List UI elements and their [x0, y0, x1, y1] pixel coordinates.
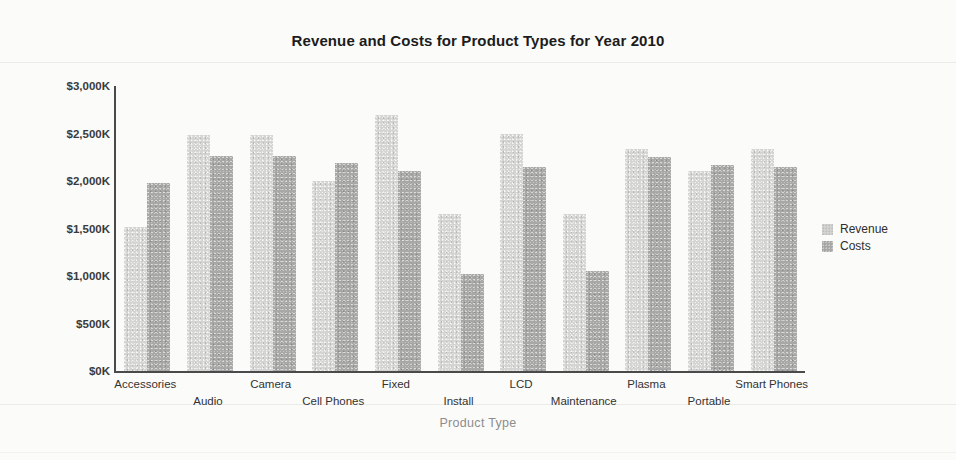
x-axis-title: Product Type — [0, 416, 956, 430]
bar-revenue[interactable] — [187, 135, 210, 371]
bar-costs[interactable] — [335, 163, 358, 371]
legend-item-revenue[interactable]: Revenue — [822, 222, 888, 236]
bar-group — [241, 86, 304, 371]
bar-costs[interactable] — [648, 157, 671, 371]
chart-title: Revenue and Costs for Product Types for … — [0, 32, 956, 49]
bar-costs[interactable] — [586, 271, 609, 371]
bar-chart: Revenue and Costs for Product Types for … — [0, 0, 956, 460]
x-axis-tick-labels: AccessoriesAudioCameraCell PhonesFixedIn… — [114, 371, 803, 417]
bar-revenue[interactable] — [751, 149, 774, 371]
x-axis-tick-label: Install — [443, 395, 473, 407]
x-axis-tick-label: Maintenance — [551, 395, 617, 407]
bar-costs[interactable] — [147, 183, 170, 371]
bar-revenue[interactable] — [312, 181, 335, 371]
legend-swatch-icon — [822, 224, 833, 235]
x-axis-tick-label: Camera — [250, 378, 291, 390]
x-axis-tick-label: Fixed — [382, 378, 410, 390]
bar-costs[interactable] — [774, 167, 797, 371]
bar-group — [492, 86, 555, 371]
bar-revenue[interactable] — [500, 134, 523, 372]
x-axis-tick-label: Portable — [688, 395, 731, 407]
bar-revenue[interactable] — [688, 171, 711, 371]
bar-revenue[interactable] — [250, 135, 273, 371]
bar-revenue[interactable] — [438, 214, 461, 371]
bar-group — [367, 86, 430, 371]
bar-costs[interactable] — [273, 156, 296, 371]
bar-group — [554, 86, 617, 371]
x-axis-tick-label: Audio — [193, 395, 222, 407]
bars-container — [116, 86, 805, 371]
x-axis-tick-label: Smart Phones — [735, 378, 808, 390]
y-axis-tick-label: $1,000K — [38, 270, 110, 282]
bar-costs[interactable] — [210, 156, 233, 371]
bar-revenue[interactable] — [124, 227, 147, 371]
chart-legend: RevenueCosts — [822, 222, 888, 256]
x-axis-tick-label: Accessories — [114, 378, 176, 390]
legend-label: Costs — [840, 239, 871, 253]
x-axis-tick-label: Plasma — [627, 378, 665, 390]
bar-group — [179, 86, 242, 371]
legend-item-costs[interactable]: Costs — [822, 239, 888, 253]
bar-revenue[interactable] — [563, 214, 586, 371]
y-axis-tick-label: $0K — [38, 365, 110, 377]
y-axis-tick-labels: $3,000K$2,500K$2,000K$1,500K$1,000K$500K… — [34, 0, 110, 460]
bar-costs[interactable] — [398, 171, 421, 371]
x-axis-tick-label: LCD — [510, 378, 533, 390]
bar-costs[interactable] — [711, 165, 734, 371]
x-axis-tick-label: Cell Phones — [302, 395, 364, 407]
y-axis-tick-label: $3,000K — [38, 80, 110, 92]
y-axis-tick-label: $500K — [38, 318, 110, 330]
legend-swatch-icon — [822, 241, 833, 252]
bar-costs[interactable] — [523, 167, 546, 371]
bar-group — [304, 86, 367, 371]
y-axis-tick-label: $2,500K — [38, 128, 110, 140]
bar-group — [742, 86, 805, 371]
bar-group — [116, 86, 179, 371]
legend-label: Revenue — [840, 222, 888, 236]
bar-group — [680, 86, 743, 371]
bar-revenue[interactable] — [375, 115, 398, 372]
bar-group — [429, 86, 492, 371]
plot-area — [114, 86, 805, 373]
bar-revenue[interactable] — [625, 149, 648, 371]
y-axis-tick-label: $2,000K — [38, 175, 110, 187]
bar-group — [617, 86, 680, 371]
y-axis-tick-label: $1,500K — [38, 223, 110, 235]
bar-costs[interactable] — [461, 274, 484, 371]
